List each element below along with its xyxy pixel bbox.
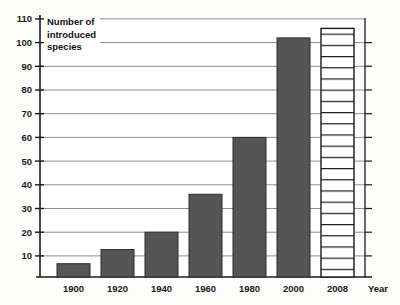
bar-chart: 10 20 30 40 50 60 70 80 90 100 110 Numbe… — [0, 0, 400, 305]
bar-2000 — [277, 38, 310, 277]
bar-1920 — [101, 250, 134, 278]
y-tick-label-70: 70 — [21, 108, 32, 119]
x-tick-label-1940: 1940 — [151, 283, 172, 294]
bar-1900 — [57, 264, 90, 277]
y-tick-label-40: 40 — [21, 179, 32, 190]
y-tick-label-60: 60 — [21, 132, 32, 143]
right-border-ticks — [365, 43, 372, 256]
bar-1980 — [233, 137, 266, 277]
x-tick-label-1980: 1980 — [239, 283, 260, 294]
y-tick-label-20: 20 — [21, 227, 32, 238]
y-tick-label-80: 80 — [21, 84, 32, 95]
y-tick-label-100: 100 — [16, 37, 32, 48]
chart-svg: 10 20 30 40 50 60 70 80 90 100 110 Numbe… — [0, 0, 400, 305]
y-tick-label-90: 90 — [21, 61, 32, 72]
y-tick-labels: 10 20 30 40 50 60 70 80 90 100 110 — [16, 13, 32, 261]
x-tick-label-2008: 2008 — [327, 283, 348, 294]
plot-title-line-1: Number of — [47, 16, 95, 27]
x-tick-label-1920: 1920 — [107, 283, 128, 294]
x-axis-title: Year — [368, 283, 388, 294]
y-tick-label-30: 30 — [21, 203, 32, 214]
x-tick-label-1900: 1900 — [63, 283, 84, 294]
y-tick-label-10: 10 — [21, 250, 32, 261]
y-tick-label-50: 50 — [21, 156, 32, 167]
plot-title-line-2: introduced — [47, 29, 96, 40]
y-tick-label-110: 110 — [17, 13, 32, 24]
plot-title-line-3: species — [47, 41, 82, 52]
bar-1940 — [145, 232, 178, 277]
x-tick-labels: 1900 1920 1940 1960 1980 2000 2008 — [63, 283, 348, 294]
x-tick-label-1960: 1960 — [195, 283, 216, 294]
x-tick-label-2000: 2000 — [283, 283, 304, 294]
bar-2008-projected — [321, 28, 354, 277]
bar-1960 — [189, 194, 222, 277]
